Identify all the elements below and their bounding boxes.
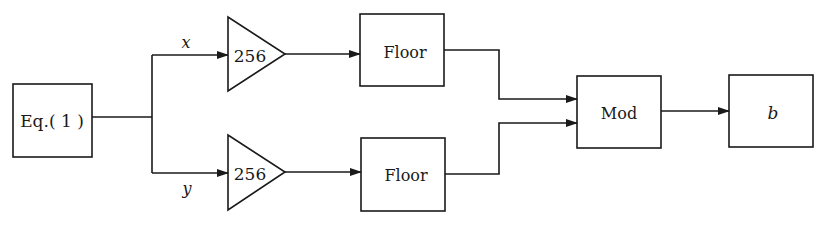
block-diagram: Eq.( 1 ) x y 256 256 Floor Floor Mod b xyxy=(0,0,821,235)
x-label: x xyxy=(181,33,190,52)
y-label: y xyxy=(182,179,191,198)
diagram-lines xyxy=(0,0,821,235)
output-label: b xyxy=(768,103,779,123)
floor-label-y: Floor xyxy=(384,166,427,185)
gain-label-y: 256 xyxy=(234,164,266,184)
mod-label: Mod xyxy=(601,104,637,123)
eq-label: Eq.( 1 ) xyxy=(20,111,84,131)
gain-label-x: 256 xyxy=(234,46,266,66)
floor-label-x: Floor xyxy=(383,43,426,62)
